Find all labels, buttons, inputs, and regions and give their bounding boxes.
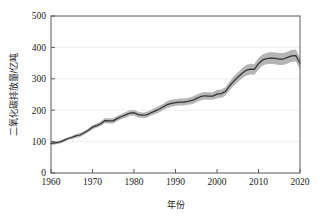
x-tick-label: 1990 bbox=[166, 177, 185, 187]
x-tick-label: 1980 bbox=[125, 177, 144, 187]
y-tick-label: 200 bbox=[32, 106, 47, 116]
y-axis-title: 二氧化碳排放量/亿吨 bbox=[8, 53, 19, 137]
co2-emissions-chart: 0100200300400500 19601970198019902000201… bbox=[0, 0, 319, 223]
x-tick-label: 2020 bbox=[291, 177, 310, 187]
x-axis-title: 年份 bbox=[167, 199, 185, 210]
x-tick-label: 1960 bbox=[42, 177, 61, 187]
y-tick-label: 300 bbox=[32, 74, 47, 84]
y-tick-label: 400 bbox=[32, 43, 47, 53]
y-tick-label: 100 bbox=[32, 137, 47, 147]
x-tick-label: 2000 bbox=[208, 177, 227, 187]
x-tick-label: 2010 bbox=[249, 177, 268, 187]
y-tick-label: 500 bbox=[32, 11, 47, 21]
x-tick-label: 1970 bbox=[83, 177, 102, 187]
